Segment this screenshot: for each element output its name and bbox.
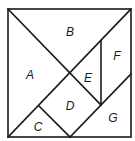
label-d: D (66, 99, 75, 113)
label-g: G (108, 111, 117, 125)
label-f: F (113, 49, 121, 63)
diagonal-top-left (8, 9, 101, 105)
label-b: B (66, 25, 74, 39)
label-e: E (84, 71, 93, 85)
label-c: C (34, 120, 43, 134)
tangram-diagram: A B C D E F G (0, 0, 135, 141)
label-a: A (25, 68, 34, 82)
